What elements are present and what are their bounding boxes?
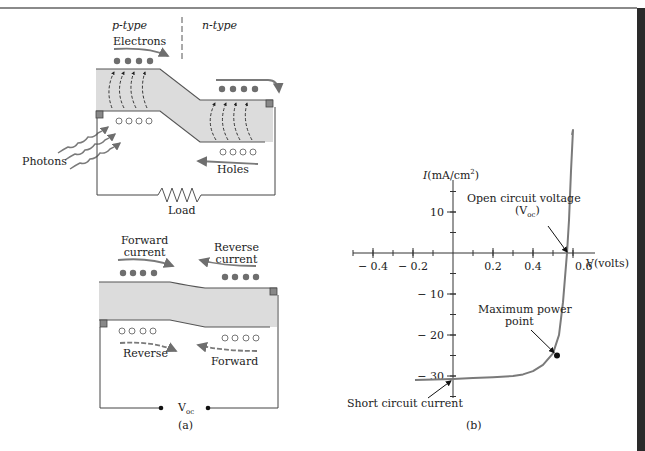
voc-main: V [178,401,186,414]
y-tick-label: − 10 [417,288,444,301]
forward-current-arrow [118,259,173,266]
y-axis-label: I(mA/cm2) [423,166,479,182]
voc-sub: oc [186,408,194,416]
caption-b: (b) [466,420,482,432]
x-tick-label: 0.2 [484,260,502,273]
holes-label: Holes [217,164,249,176]
forward-current-line2: current [121,247,168,259]
contact-left-bottom [100,320,107,327]
short-circuit-label: Short circuit current [347,398,463,410]
photon-arrows [58,127,120,169]
voc-ann-main: (V [515,204,527,217]
electrons-left [114,58,153,64]
load-resistor [158,188,201,202]
voc-arrow [548,226,567,252]
reverse-current-line2: current [214,254,259,266]
x-tick-label: − 0.2 [398,260,428,273]
terminal-right [206,406,211,411]
electrons-label: Electrons [113,36,166,48]
x-tick-label: 0.4 [524,260,542,273]
terminal-left [159,406,164,411]
electron-flow-arrow [114,49,168,56]
load-label: Load [168,205,196,217]
photons-label: Photons [22,156,67,168]
holes-right-bottom [222,335,259,341]
holes-left-bottom [119,328,156,334]
caption-a: (a) [178,420,193,432]
electrons-right [219,86,258,92]
forward-label: Forward [211,356,258,368]
y-tick-label: − 30 [417,370,444,383]
contact-left [96,111,103,118]
max-power-line2: point [505,316,534,328]
voc-label: Voc [178,402,194,418]
x-axis-label: V(volts) [586,258,629,270]
holes-left [116,118,152,124]
contact-right [266,100,273,107]
max-power-point-marker [554,353,560,359]
voc-annotation-line2: (Voc) [515,205,540,221]
voc-ann-end: ) [535,204,539,217]
reverse-current-label: Reverse current [214,242,259,266]
x-tick-label: − 0.4 [358,260,388,273]
p-type-label: p-type [112,20,147,32]
short-circuit-arrow [428,381,451,398]
electron-exit-arrow [216,80,279,92]
figure-canvas: − 0.4− 0.20.20.40.610− 10− 20− 30 [0,0,645,451]
forward-current-label: Forward current [121,235,168,259]
forward-hole-arrow [198,345,257,351]
electrons-left-bottom [120,270,157,276]
holes-right [220,149,256,155]
y-tick-label: − 20 [417,329,444,342]
y-tick-label: 10 [430,206,444,219]
contact-right-bottom [270,288,277,295]
reverse-label: Reverse [123,348,168,360]
n-type-label: n-type [202,20,237,32]
max-power-arrow [531,330,554,353]
electrons-right-bottom [222,274,259,280]
